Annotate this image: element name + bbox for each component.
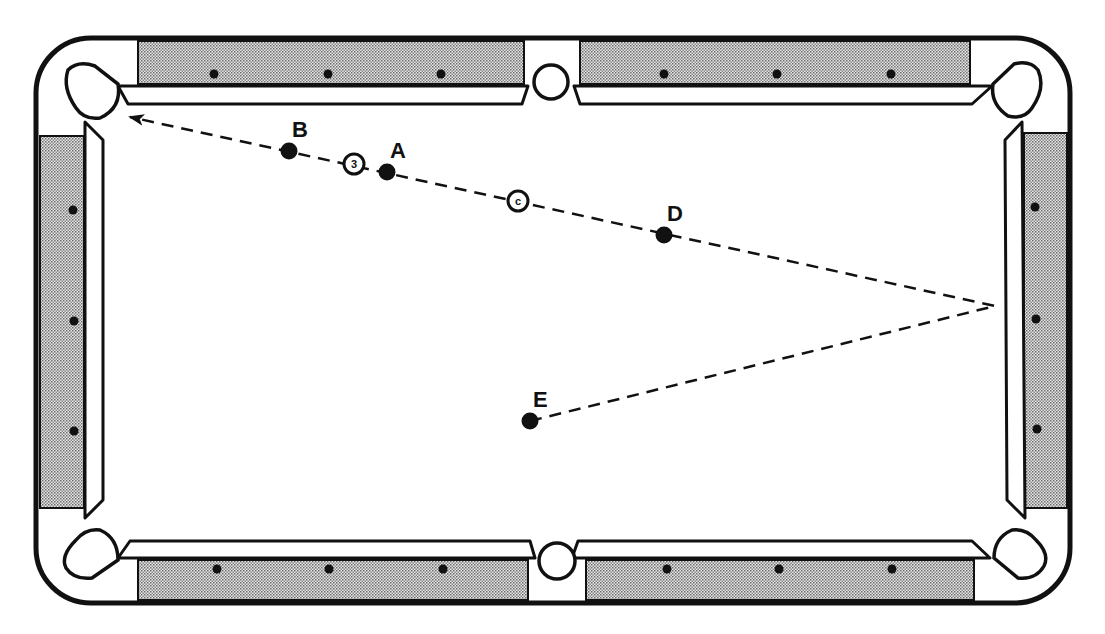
diamond-marker-top [437, 70, 446, 79]
diamond-marker-left [70, 427, 79, 436]
diamond-marker-bottom [888, 565, 897, 574]
ball-number: 3 [351, 158, 357, 170]
diamond-marker-top [660, 70, 669, 79]
ball-label: E [533, 387, 548, 412]
diamond-marker-top [887, 70, 896, 79]
diamond-marker-bottom [439, 565, 448, 574]
table-outer-frame [36, 38, 1070, 603]
ball-label: B [292, 117, 308, 142]
diamond-marker-right [1033, 425, 1042, 434]
ball-3: 3 [344, 154, 364, 174]
diamond-marker-bottom [213, 565, 222, 574]
diamond-marker-right [1032, 315, 1041, 324]
diamond-marker-top [324, 70, 333, 79]
ball-label: D [667, 201, 683, 226]
diamond-marker-left [70, 317, 79, 326]
pool-table: ABDE 3c [0, 0, 1105, 634]
diamond-marker-bottom [325, 565, 334, 574]
diamond-marker-right [1031, 203, 1040, 212]
diamond-marker-top [210, 70, 219, 79]
diamond-marker-top [773, 70, 782, 79]
diamond-marker-left [69, 206, 78, 215]
cue-ball: c [508, 191, 528, 211]
pocket-bottom-middle [539, 543, 575, 579]
pool-table-diagram: ABDE 3c [0, 0, 1105, 634]
pocket-top-middle [534, 65, 568, 99]
ball-label: A [390, 138, 406, 163]
ball-number: c [515, 195, 521, 207]
diamond-marker-bottom [775, 565, 784, 574]
diamond-marker-bottom [663, 565, 672, 574]
